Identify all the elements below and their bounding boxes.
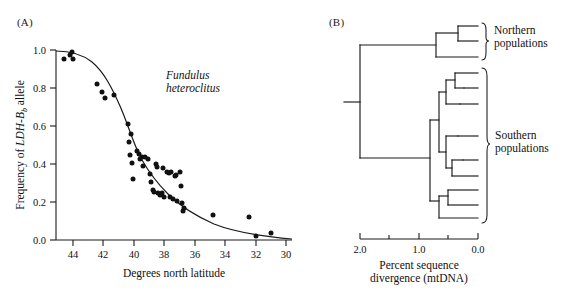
x-tick-label: 34: [220, 249, 231, 260]
svg-text:Frequency of LDH-Bb allele: Frequency of LDH-Bb allele: [14, 80, 29, 210]
data-point: [126, 122, 131, 127]
data-point: [180, 201, 185, 206]
data-point: [247, 215, 252, 220]
y-tick-label: 0.2: [33, 197, 46, 208]
y-tick-label: 0.0: [33, 235, 46, 246]
data-point: [62, 57, 67, 62]
northern-label-line2: populations: [494, 37, 548, 50]
southern-bracket: [482, 68, 490, 223]
y-axis-label-prefix: Frequency of: [14, 146, 27, 210]
x-tick-label: 2.0: [353, 244, 366, 255]
species-epithet: heteroclitus: [166, 82, 220, 94]
northern-label-line1: Northern: [494, 24, 536, 36]
data-point: [131, 177, 136, 182]
data-point: [127, 140, 132, 145]
y-tick-label: 1.0: [33, 45, 46, 56]
data-point: [148, 172, 153, 177]
data-point: [128, 153, 133, 158]
data-point: [155, 165, 160, 170]
x-axis-label-line2: divergence (mtDNA): [370, 272, 468, 285]
y-axis-label-italic: LDH-B: [14, 112, 26, 147]
y-axis-label-suffix: allele: [14, 80, 26, 108]
x-tick-label: 44: [68, 249, 79, 260]
data-point: [162, 195, 167, 200]
x-tick-label: 38: [159, 249, 170, 260]
data-point: [129, 132, 134, 137]
data-point: [161, 166, 166, 171]
data-point: [71, 57, 76, 62]
data-point: [174, 173, 179, 178]
panel-b-tree-branches: [344, 26, 478, 218]
panel-a-x-axis-label: Degrees north latitude: [123, 267, 225, 280]
data-point: [70, 50, 75, 55]
data-point: [211, 213, 216, 218]
data-point: [149, 180, 154, 185]
data-point: [182, 206, 187, 211]
y-tick-label: 0.8: [33, 83, 46, 94]
figure-container: (A) (B): [0, 0, 563, 295]
x-tick-label: 30: [281, 249, 292, 260]
data-point: [103, 96, 108, 101]
data-point: [175, 199, 180, 204]
x-tick-label: 1.0: [412, 244, 425, 255]
panel-b-x-tick-labels: 2.0 1.0 0.0: [353, 244, 484, 255]
data-point: [254, 234, 259, 239]
data-point: [95, 82, 100, 87]
x-tick-label: 40: [129, 249, 140, 260]
panel-b-x-axis-label: Percent sequence divergence (mtDNA): [370, 259, 468, 285]
data-point: [178, 170, 183, 175]
panel-b-group-brackets: [482, 23, 490, 223]
data-point: [141, 164, 146, 169]
y-tick-label: 0.4: [33, 159, 47, 170]
panel-b-axis: [360, 233, 478, 239]
panel-b-group-label-southern: Southern populations: [495, 129, 549, 155]
northern-bracket: [482, 23, 489, 60]
panel-a-scatter-plot: 1.0 0.8 0.6 0.4 0.2 0.0 44 42 40 38 36 3…: [0, 0, 300, 295]
x-tick-label: 36: [190, 249, 201, 260]
data-point: [179, 184, 184, 189]
x-axis-label-line1: Percent sequence: [379, 259, 459, 272]
x-tick-label: 42: [98, 249, 109, 260]
panel-b-phylogenetic-tree: 2.0 1.0 0.0 Percent sequence divergence …: [300, 0, 563, 295]
panel-a-species-annotation: Fundulus heteroclitus: [165, 69, 220, 94]
data-point: [100, 90, 105, 95]
x-tick-label: 32: [251, 249, 262, 260]
southern-label-line1: Southern: [495, 129, 537, 141]
y-tick-label: 0.6: [33, 121, 46, 132]
data-point: [169, 170, 174, 175]
data-point: [112, 93, 117, 98]
panel-a-y-axis-label: Frequency of LDH-Bb allele: [14, 80, 29, 210]
data-point: [146, 157, 151, 162]
x-tick-label: 0.0: [471, 244, 484, 255]
panel-a-x-tick-labels: 44 42 40 38 36 34 32 30: [68, 249, 292, 260]
panel-a-y-tick-labels: 1.0 0.8 0.6 0.4 0.2 0.0: [33, 45, 47, 246]
species-genus: Fundulus: [165, 69, 210, 81]
southern-label-line2: populations: [495, 142, 549, 155]
data-point: [269, 231, 274, 236]
data-point: [130, 161, 135, 166]
panel-b-group-label-northern: Northern populations: [494, 24, 548, 50]
